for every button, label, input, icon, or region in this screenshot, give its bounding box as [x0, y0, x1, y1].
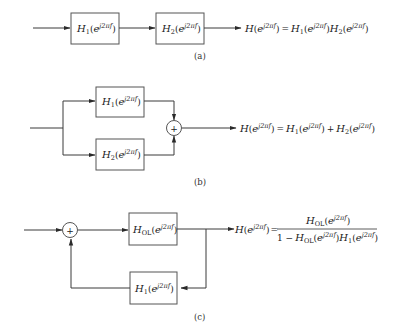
bottom-to-sum-arrow: [144, 136, 174, 155]
block-diagrams: H1(ej2πf) H2(ej2πf) H(ej2πf)=H1(ej2πf)H2…: [0, 0, 398, 332]
panel-a-cascade: H1(ej2πf) H2(ej2πf) H(ej2πf)=H1(ej2πf)H2…: [33, 13, 368, 61]
feedback-to-sum-arrow: [71, 239, 130, 288]
equation-a: H(ej2πf)=H1(ej2πf)H2(ej2πf): [244, 22, 368, 36]
panel-c-feedback: + HOL(ej2πf) H1(ej2πf) H(ej2πf)= HOL(ej2…: [24, 213, 378, 322]
feedback-path-arrow: [181, 229, 206, 288]
caption-c: (c): [194, 312, 205, 322]
equation-c-denominator: 1 −HOL(ej2πf)H1(ej2πf): [277, 231, 378, 245]
caption-a: (a): [194, 51, 206, 61]
sum-sign: +: [66, 226, 74, 236]
caption-b: (b): [194, 177, 206, 187]
panel-b-parallel: H1(ej2πf) H2(ej2πf) + H(ej2πf)=H1(ej2πf)…: [30, 87, 375, 187]
sum-sign: +: [170, 124, 178, 134]
equation-c-numerator: HOL(ej2πf): [305, 214, 350, 228]
equation-c-lhs: H(ej2πf)=: [234, 223, 278, 235]
equation-b: H(ej2πf)=H1(ej2πf)+H2(ej2πf): [239, 122, 375, 136]
top-to-sum-arrow: [144, 101, 174, 120]
